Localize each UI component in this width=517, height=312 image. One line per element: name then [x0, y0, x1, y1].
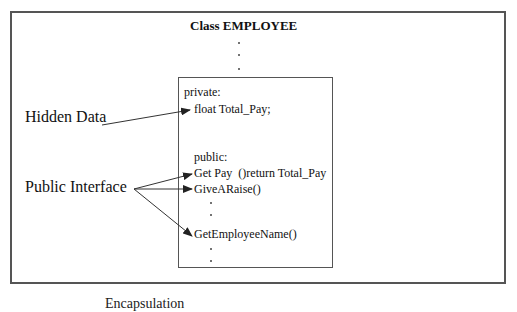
ellipsis-dot	[210, 202, 212, 204]
ellipsis-dot	[210, 214, 212, 216]
figure-caption: Encapsulation	[105, 296, 184, 312]
hidden-data-label: Hidden Data	[25, 108, 106, 126]
ellipsis-dot	[238, 42, 240, 44]
public-member-get-pay: Get Pay ()return Total_Pay	[194, 166, 326, 180]
public-member-get-employee-name: GetEmployeeName()	[194, 227, 297, 241]
private-member-total-pay: float Total_Pay;	[194, 102, 271, 116]
public-interface-label: Public Interface	[25, 178, 127, 196]
class-title: Class EMPLOYEE	[190, 18, 297, 34]
ellipsis-dot	[238, 68, 240, 70]
public-header: public:	[194, 150, 227, 164]
public-member-give-a-raise: GiveARaise()	[194, 182, 261, 196]
ellipsis-dot	[210, 248, 212, 250]
private-header: private:	[184, 85, 221, 99]
ellipsis-dot	[238, 54, 240, 56]
ellipsis-dot	[210, 260, 212, 262]
